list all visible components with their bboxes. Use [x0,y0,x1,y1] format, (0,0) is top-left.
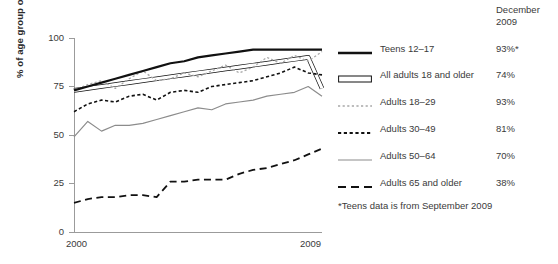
y-tick-100-mark [69,38,74,39]
solid-thick-line-icon [338,49,372,57]
legend-label-adults-65-and-older: Adults 65 and older [380,177,462,188]
legend-item-adults-18-29[interactable]: Adults 18–29 93% [336,95,558,115]
legend-value-adults-65-and-older: 38% [496,177,515,188]
chart-footnote: *Teens data is from September 2009 [338,200,492,211]
chart-page: % of age group online 100 75 50 25 0 200… [0,0,558,264]
legend-item-adults-50-64[interactable]: Adults 50–64 70% [336,149,558,169]
legend-value-teens-12-17: 93%* [496,43,519,54]
solid-thin-gray-line-icon [338,156,372,164]
legend-value-adults-50-64: 70% [496,150,515,161]
legend-header-line2: 2009 [496,16,556,28]
dashed-short-line-icon [338,129,372,137]
y-tick-label-25: 25 [0,177,64,188]
y-tick-0-mark [69,232,74,233]
legend-label-adults-18-29: Adults 18–29 [380,96,435,107]
legend-label-teens-12-17: Teens 12–17 [380,43,434,54]
hollow-band-icon [338,75,372,83]
legend-label-all-adults-18-and-older: All adults 18 and older [380,69,474,80]
legend-label-adults-50-64: Adults 50–64 [380,150,435,161]
x-tick-label-2009: 2009 [300,238,321,249]
legend-value-all-adults-18-and-older: 74% [496,69,515,80]
y-tick-label-75: 75 [0,80,64,91]
y-tick-25-mark [69,183,74,184]
legend-value-adults-18-29: 93% [496,96,515,107]
y-axis-line [74,38,75,232]
legend-item-all-adults-18-and-older[interactable]: All adults 18 and older 74% [336,68,558,88]
legend-header-line1: December [496,4,556,16]
dotted-light-line-icon [338,102,372,110]
y-tick-label-50: 50 [0,129,64,140]
legend-value-adults-30-49: 81% [496,123,515,134]
dashed-long-line-icon [338,183,372,191]
x-tick-label-2000: 2000 [66,238,87,249]
y-tick-label-100: 100 [0,32,64,43]
chart-legend: December 2009 Teens 12–17 93%* All adult… [336,0,558,264]
x-axis-line [74,232,322,233]
y-tick-50-mark [69,135,74,136]
y-tick-label-0: 0 [0,226,64,237]
line-chart: % of age group online 100 75 50 25 0 200… [0,0,340,264]
y-tick-75-mark [69,86,74,87]
legend-column-header: December 2009 [496,4,556,28]
legend-item-adults-65-and-older[interactable]: Adults 65 and older 38% [336,176,558,196]
legend-item-adults-30-49[interactable]: Adults 30–49 81% [336,122,558,142]
legend-item-teens-12-17[interactable]: Teens 12–17 93%* [336,42,558,62]
legend-label-adults-30-49: Adults 30–49 [380,123,435,134]
